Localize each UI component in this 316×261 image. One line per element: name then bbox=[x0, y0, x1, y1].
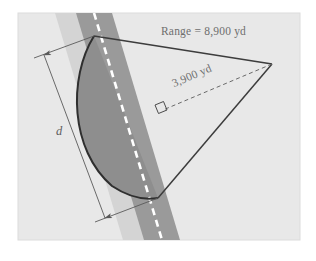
range-label: Range = 8,900 yd bbox=[161, 25, 246, 37]
width-label: d bbox=[56, 124, 62, 139]
figure-container: Range = 8,900 yd 3,900 yd d bbox=[0, 0, 316, 261]
range-fan-diagram bbox=[0, 0, 316, 261]
